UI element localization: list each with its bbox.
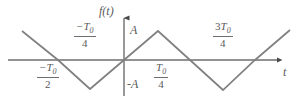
tick-subscript-neg-quarter-T0: 0 <box>90 26 94 35</box>
tick-label-neg-quarter-T0: −T0 4 <box>74 21 96 50</box>
tick-subscript-pos-quarter-T0: 0 <box>162 67 166 76</box>
triangular-wave-figure: f(t) t A -A −T0 2 −T0 4 T0 <box>0 0 301 107</box>
tick-denominator-neg-quarter-T0: 4 <box>74 37 96 49</box>
tick-denominator-neg-half-T0: 2 <box>37 78 59 90</box>
tick-label-neg-half-T0: −T0 2 <box>37 62 59 91</box>
tick-label-pos-quarter-T0: T0 4 <box>154 62 168 91</box>
tick-subscript-three-quarter-T0: 0 <box>227 26 231 35</box>
tick-denominator-three-quarter-T0: 4 <box>213 37 233 49</box>
waveform-plot <box>0 0 301 107</box>
tick-subscript-neg-half-T0: 0 <box>53 67 57 76</box>
tick-denominator-pos-quarter-T0: 4 <box>154 78 168 90</box>
amplitude-positive-label: A <box>130 24 137 36</box>
f-axis-label: f(t) <box>99 5 114 17</box>
tick-label-three-quarter-T0: 3T0 4 <box>213 21 233 50</box>
amplitude-negative-label: -A <box>127 78 138 90</box>
t-axis-label: t <box>283 66 286 78</box>
